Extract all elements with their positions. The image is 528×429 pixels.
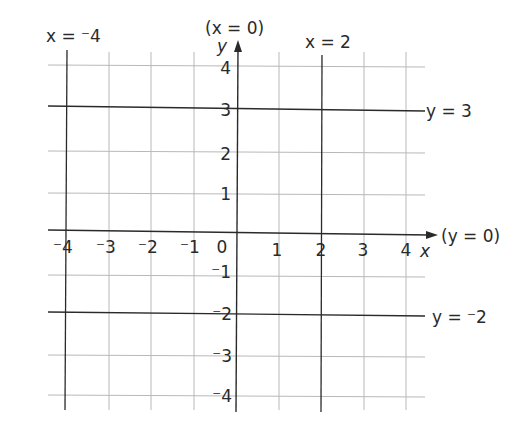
svg-text:1: 1 — [220, 184, 231, 204]
svg-text:3: 3 — [358, 240, 369, 260]
svg-text:⁻2: ⁻2 — [212, 304, 232, 324]
svg-text:1: 1 — [272, 240, 283, 260]
svg-text:2: 2 — [220, 144, 231, 164]
svg-text:⁻2: ⁻2 — [138, 237, 158, 257]
coordinate-graph: ⁻4 ⁻3 ⁻2 ⁻1 0 1 2 3 4 1 2 3 4 ⁻1 ⁻2 ⁻3 ⁻… — [0, 0, 528, 429]
x-axis — [48, 230, 430, 235]
y-axis-name: y — [216, 36, 228, 56]
svg-text:⁻3: ⁻3 — [212, 346, 232, 366]
axes — [48, 48, 430, 412]
svg-text:⁻4: ⁻4 — [53, 237, 73, 257]
y-axis-arrow-icon — [234, 40, 242, 52]
svg-text:4: 4 — [401, 240, 412, 260]
label-x-2: x = 2 — [305, 32, 351, 52]
line-y-3 — [48, 106, 425, 111]
x-axis-name: x — [419, 241, 431, 261]
y-axis-equation: (x = 0) — [205, 18, 264, 38]
x-axis-equation: (y = 0) — [441, 226, 500, 246]
label-y-neg2: y = ⁻2 — [432, 307, 487, 327]
x-tick-labels: ⁻4 ⁻3 ⁻2 ⁻1 0 1 2 3 4 — [53, 237, 411, 260]
x-axis-arrow-icon — [426, 231, 438, 239]
svg-text:⁻4: ⁻4 — [212, 386, 232, 406]
svg-text:⁻3: ⁻3 — [96, 237, 116, 257]
svg-text:0: 0 — [217, 237, 228, 257]
label-y-3: y = 3 — [426, 101, 472, 121]
svg-text:4: 4 — [220, 58, 231, 78]
svg-text:⁻1: ⁻1 — [180, 237, 200, 257]
svg-text:2: 2 — [316, 240, 327, 260]
svg-text:⁻1: ⁻1 — [211, 262, 231, 282]
label-x-neg4: x = ⁻4 — [46, 26, 101, 46]
svg-text:3: 3 — [220, 100, 231, 120]
y-axis — [236, 48, 238, 412]
